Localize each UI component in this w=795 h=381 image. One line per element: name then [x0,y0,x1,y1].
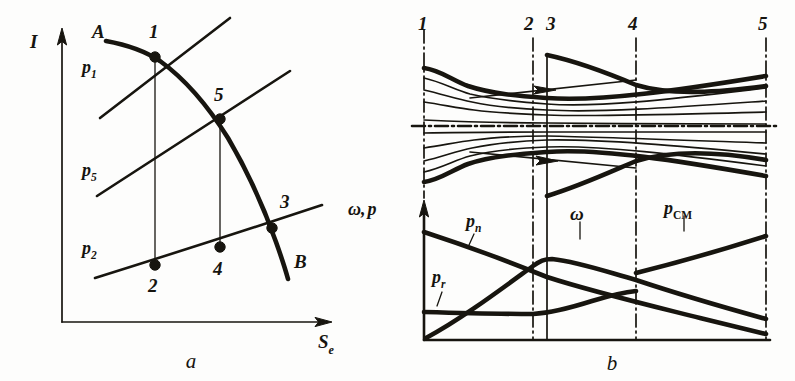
leader-p-n [469,234,474,245]
curve-label-p-cm: pCM [662,198,692,221]
x-axis-label-sub: e [329,343,335,357]
panel-a-x-axis-label: Se [318,331,335,357]
state-point-label-4: 4 [212,258,223,279]
section-marker-label-5: 5 [758,13,768,34]
isobar-p1-line [100,18,230,118]
panel-b-caption: b [607,351,618,375]
isobar-p2-line [95,205,322,278]
panel-a-y-axis [57,28,66,322]
panel-a-x-axis [62,317,332,326]
axis-label-p: p [366,199,377,219]
curve-label-p-cm-sub: CM [673,209,692,221]
streamline-center-upper [424,120,766,124]
state-point-5-dot [215,114,225,124]
section-marker-label-2: 2 [523,13,534,34]
state-point-1-dot [150,52,160,62]
curve-label-p-n-sub: n [475,222,481,234]
leader-p-r [437,292,442,306]
curve-start-label-A: A [91,21,105,42]
curve-label-p-r-base: p [430,267,441,287]
panel-a-y-axis-label: I [29,31,38,52]
isobar-label-p2: p2 [80,238,97,261]
curve-end-label-B: B [293,251,307,272]
figure-canvas: I Se A B p1 p5 p2 1 2 3 4 5 a [0,0,795,381]
state-point-2-dot [150,260,160,270]
flowpath-section [412,55,778,196]
flow-arrow-upper-head [534,86,556,94]
axis-label-comma: , [360,199,366,219]
state-point-label-5: 5 [214,84,224,105]
isobar-label-p5-base: p [80,160,91,180]
figure-root: I Se A B p1 p5 p2 1 2 3 4 5 a [0,0,795,381]
state-point-label-2: 2 [147,275,158,296]
curve-label-omega: ω [570,203,584,224]
parameter-plot-axis-label: ω,p [348,199,377,219]
panel-b: ω,p pn pr ω pCM 1 2 3 4 5 b [348,13,778,375]
curve-p-n [424,232,766,334]
curve-label-p-r: pr [430,267,446,290]
section-marker-label-1: 1 [418,13,428,34]
curve-label-p-cm-base: p [662,198,673,218]
isobar-label-p1-base: p [80,57,91,77]
state-point-label-1: 1 [149,21,159,42]
isobar-label-p2-base: p [80,238,91,258]
curve-label-p-n: pn [464,211,481,234]
isobar-label-p5-sub: 5 [91,171,97,183]
isobar-label-p1-sub: 1 [91,68,97,80]
expansion-curve-AB [106,41,288,279]
streamline-center-lower [424,132,766,133]
curve-label-p-r-sub: r [441,278,446,290]
panel-a-caption: a [186,349,197,373]
x-axis-label-base: S [318,331,329,352]
isobar-label-p5: p5 [80,160,97,183]
curve-p-cm [636,236,766,273]
state-point-3-dot [267,223,277,233]
streamline-lower-4 [424,136,766,148]
isobar-label-p2-sub: 2 [90,249,97,261]
state-point-4-dot [215,242,225,252]
panel-a: I Se A B p1 p5 p2 1 2 3 4 5 a [29,18,335,373]
parameter-plot: ω,p pn pr ω pCM [348,198,770,340]
curve-label-p-n-base: p [464,211,475,231]
section-marker-label-4: 4 [627,13,638,34]
isobar-label-p1: p1 [80,57,97,80]
axis-label-omega: ω [348,199,361,219]
section-marker-label-3: 3 [545,13,556,34]
state-point-label-3: 3 [279,191,290,212]
